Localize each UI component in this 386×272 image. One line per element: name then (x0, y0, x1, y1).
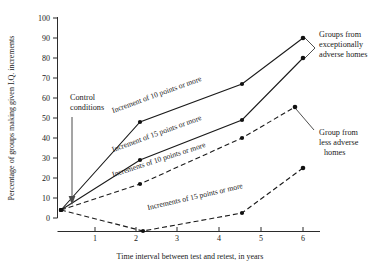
data-point (240, 118, 244, 122)
data-point (301, 36, 306, 41)
y-tick-label-10: 10 (42, 194, 50, 203)
y-tick-label-30: 30 (42, 154, 50, 163)
x-tick-label-5: 5 (259, 234, 263, 243)
data-point (301, 166, 306, 171)
y-axis-title: Percentage of groups making given I.Q. i… (7, 36, 16, 201)
data-point (301, 56, 306, 61)
exceptional-line1: Groups from (319, 30, 362, 39)
y-tick-label-100: 100 (38, 14, 50, 23)
data-point (240, 211, 244, 215)
curve-label-increments-15-less-adverse: Increments of 15 points or more (146, 181, 244, 212)
x-tick-label-6: 6 (301, 234, 305, 243)
data-point (59, 208, 63, 212)
exceptional-line2: exceptionally (319, 40, 364, 49)
x-axis-title: Time interval between test and retest, i… (117, 252, 264, 261)
y-tick-label-20: 20 (42, 174, 50, 183)
data-point (141, 229, 145, 233)
annotation-exceptionally-adverse-homes: Groups from exceptionally adverse homes (305, 30, 367, 59)
exceptional-line3: adverse homes (319, 50, 367, 59)
control-conditions-line1: Control (70, 93, 96, 102)
less-adverse-line1: Group from (319, 128, 359, 137)
y-tick-label-50: 50 (42, 114, 50, 123)
y-tick-label-70: 70 (42, 74, 50, 83)
y-axis: 100 90 80 70 60 50 40 30 20 10 0 (38, 14, 58, 223)
less-adverse-leader-icon (296, 109, 314, 130)
y-tick-label-40: 40 (42, 134, 50, 143)
control-conditions-line2: conditions (70, 103, 104, 112)
data-point (138, 182, 142, 186)
x-tick-label-4: 4 (217, 234, 221, 243)
exceptional-brace-icon (305, 38, 315, 58)
data-point (240, 82, 244, 86)
less-adverse-line2: less adverse (319, 138, 359, 147)
x-tick-label-3: 3 (175, 234, 179, 243)
y-tick-label-80: 80 (42, 54, 50, 63)
y-tick-label-90: 90 (42, 34, 50, 43)
data-point (138, 120, 142, 124)
y-tick-label-0: 0 (46, 214, 50, 223)
annotation-less-adverse-homes: Group from less adverse homes (296, 109, 359, 157)
curve-label-increment-10-exceptional: Increment of 10 points or more (111, 74, 204, 115)
x-tick-label-1: 1 (93, 234, 97, 243)
data-point (293, 105, 298, 110)
y-tick-label-60: 60 (42, 94, 50, 103)
annotation-control-conditions: Control conditions (69, 93, 105, 205)
iq-increments-line-chart: 100 90 80 70 60 50 40 30 20 10 0 1 2 3 4… (0, 0, 386, 272)
less-adverse-line3: homes (324, 148, 345, 157)
data-point (240, 136, 244, 140)
x-axis: 1 2 3 4 5 6 (58, 227, 321, 243)
chart-canvas: 100 90 80 70 60 50 40 30 20 10 0 1 2 3 4… (0, 0, 386, 272)
x-tick-label-2: 2 (134, 234, 138, 243)
series-increment-15-exceptional (59, 56, 305, 212)
